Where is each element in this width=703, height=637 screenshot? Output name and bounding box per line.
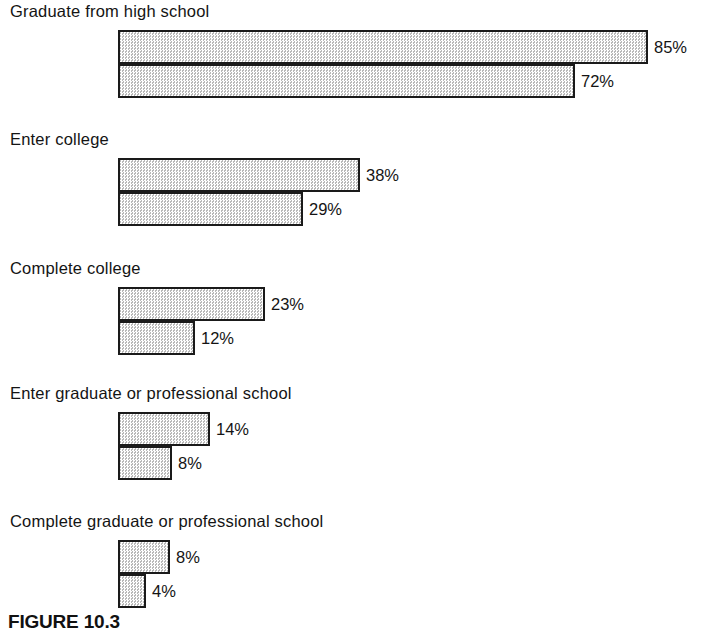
bar: [118, 540, 170, 574]
group-title: Graduate from high school: [10, 2, 209, 21]
group-title: Complete graduate or professional school: [10, 512, 323, 531]
figure-caption: FIGURE 10.3: [8, 611, 120, 633]
bar-value-label: 8%: [176, 540, 200, 574]
bar: [118, 192, 303, 226]
group-title: Enter college: [10, 130, 109, 149]
bar: [118, 64, 575, 98]
bar-value-label: 85%: [654, 30, 687, 64]
bar: [118, 574, 146, 608]
group-title: Complete college: [10, 259, 141, 278]
bar: [118, 287, 265, 321]
group-title: Enter graduate or professional school: [10, 384, 292, 403]
bar-value-label: 8%: [178, 446, 202, 480]
bar: [118, 446, 172, 480]
bar: [118, 321, 195, 355]
bar: [118, 412, 210, 446]
bar-value-label: 38%: [366, 158, 399, 192]
bar-value-label: 23%: [271, 287, 304, 321]
bar-value-label: 14%: [216, 412, 249, 446]
bar: [118, 158, 360, 192]
bar-value-label: 72%: [581, 64, 614, 98]
figure-10-3: Graduate from high schoolWhites85%Blacks…: [0, 0, 703, 637]
bar-value-label: 4%: [152, 574, 176, 608]
bar-value-label: 12%: [201, 321, 234, 355]
bar-value-label: 29%: [309, 192, 342, 226]
bar: [118, 30, 648, 64]
